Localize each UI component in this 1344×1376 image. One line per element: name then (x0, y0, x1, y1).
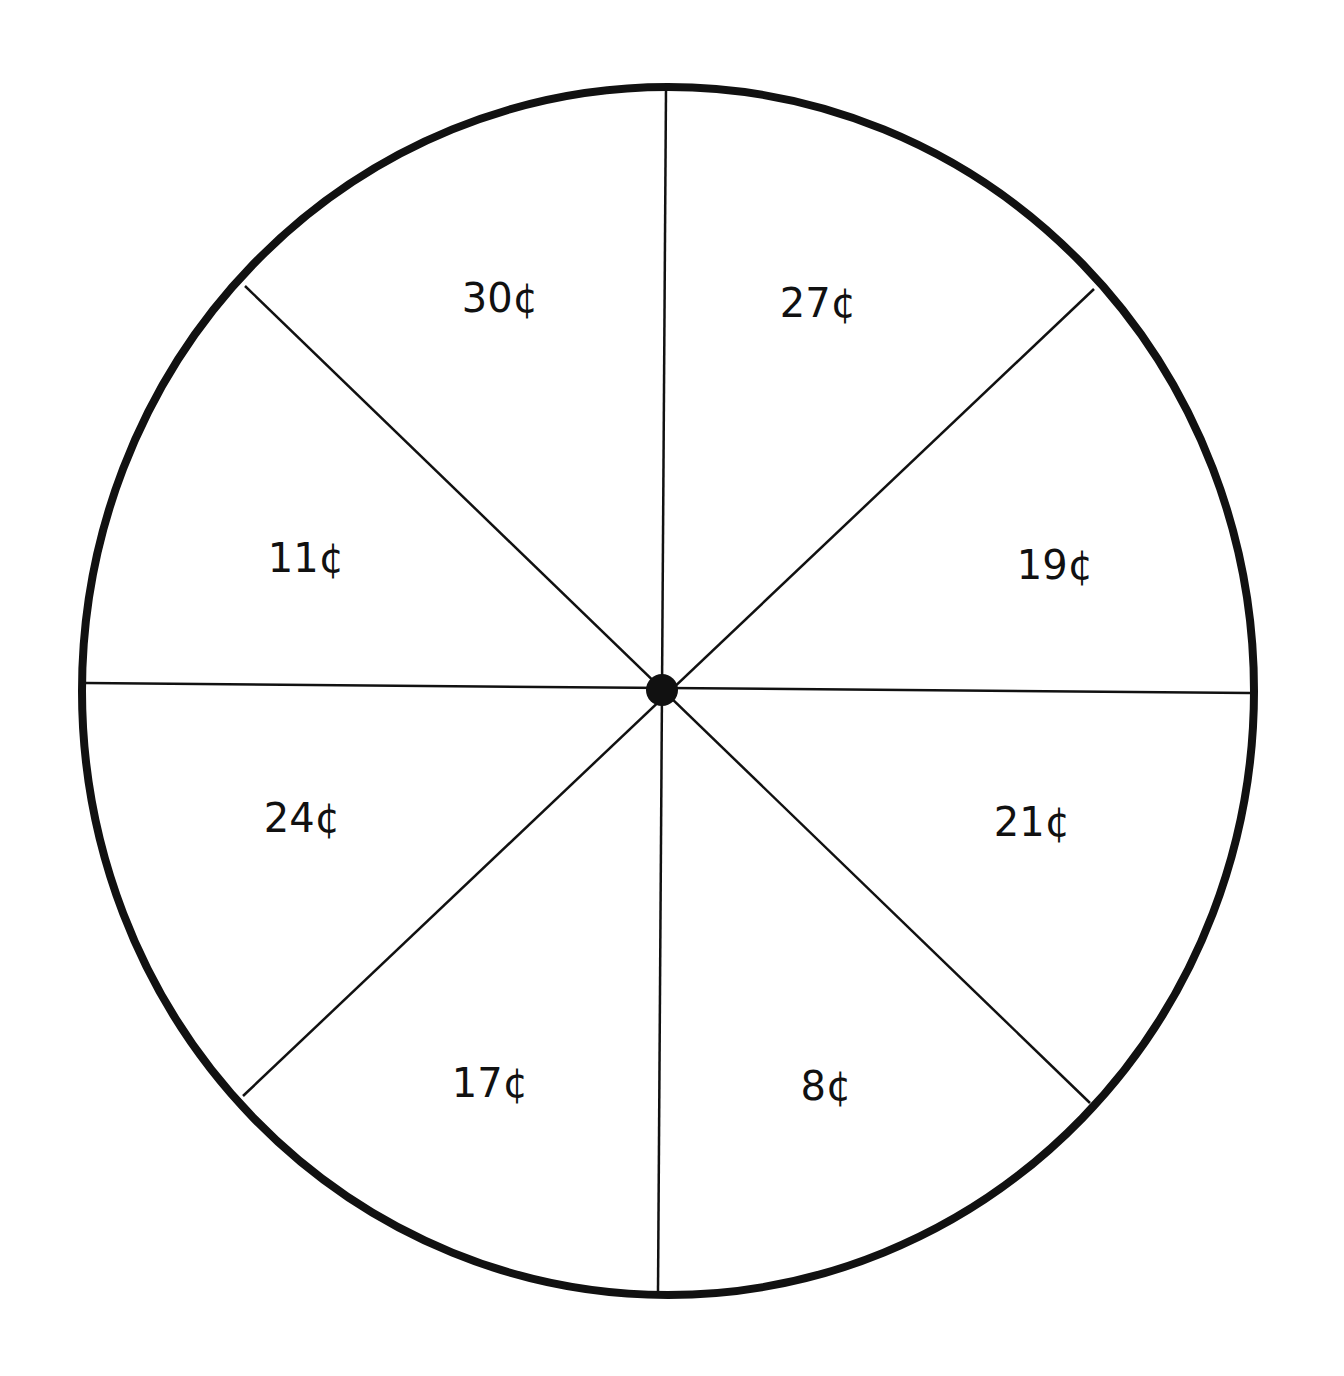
section-label: 19¢ (1017, 542, 1093, 588)
section-label: 11¢ (268, 535, 344, 581)
section-label: 27¢ (780, 280, 856, 326)
section-label: 8¢ (801, 1063, 852, 1109)
section-label: 30¢ (462, 275, 538, 321)
spinner-hub (646, 674, 678, 706)
section-label: 21¢ (994, 799, 1070, 845)
section-label: 24¢ (264, 795, 340, 841)
section-label: 17¢ (452, 1060, 528, 1106)
spinner-diagram: 30¢ 27¢ 19¢ 21¢ 8¢ 17¢ 24¢ 11¢ (0, 0, 1344, 1376)
